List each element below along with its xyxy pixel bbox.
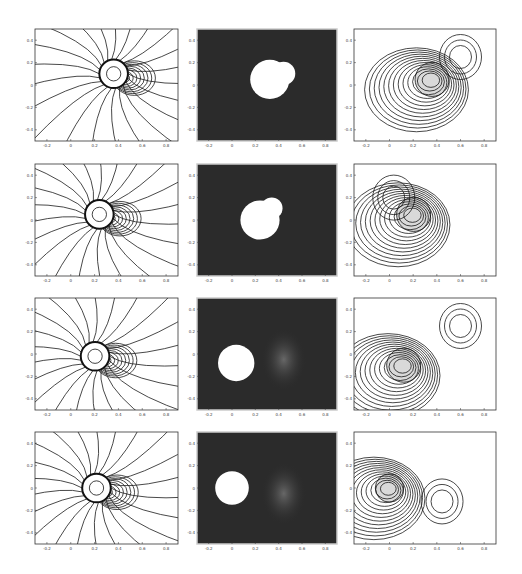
svg-text:0.4: 0.4 (275, 278, 282, 283)
svg-text:-0.2: -0.2 (344, 374, 352, 379)
svg-text:0: 0 (69, 278, 72, 283)
svg-text:-0.4: -0.4 (187, 530, 195, 535)
svg-text:0.2: 0.2 (346, 463, 353, 468)
svg-text:0.2: 0.2 (189, 195, 196, 200)
svg-text:0.6: 0.6 (139, 143, 146, 148)
svg-text:0.2: 0.2 (189, 463, 196, 468)
pressure-contour-plot-row-1: -0.200.20.40.60.80.40.20-0.2-0.4 (35, 29, 178, 141)
svg-text:-0.2: -0.2 (187, 374, 195, 379)
svg-text:-0.2: -0.2 (187, 105, 195, 110)
svg-text:0.6: 0.6 (139, 412, 146, 417)
svg-text:0.6: 0.6 (299, 546, 306, 551)
svg-text:0.4: 0.4 (27, 441, 34, 446)
svg-text:0.6: 0.6 (139, 546, 146, 551)
pressure-contour-plot-row-3: -0.200.20.40.60.80.40.20-0.2-0.4 (35, 298, 178, 410)
pressure-contour-plot-row-2: -0.200.20.40.60.80.40.20-0.2-0.4 (35, 164, 178, 276)
svg-text:0.6: 0.6 (299, 412, 306, 417)
svg-text:-0.4: -0.4 (25, 396, 33, 401)
svg-text:0.8: 0.8 (481, 278, 488, 283)
svg-text:0.8: 0.8 (322, 546, 329, 551)
visualization-image-row-4: -0.200.20.40.60.80.40.20-0.2-0.4 (197, 432, 337, 544)
svg-text:0.6: 0.6 (457, 278, 464, 283)
svg-text:0.2: 0.2 (410, 546, 417, 551)
svg-text:0.4: 0.4 (434, 412, 441, 417)
svg-text:0.8: 0.8 (481, 143, 488, 148)
svg-text:0.4: 0.4 (346, 307, 353, 312)
vorticity-contour-plot-row-3: -0.200.20.40.60.80.40.20-0.2-0.4 (354, 298, 496, 410)
svg-text:0: 0 (349, 352, 352, 357)
svg-text:0.2: 0.2 (91, 412, 98, 417)
svg-text:-0.4: -0.4 (344, 396, 352, 401)
svg-text:0.2: 0.2 (27, 195, 34, 200)
svg-text:-0.4: -0.4 (344, 530, 352, 535)
svg-text:0.4: 0.4 (115, 143, 122, 148)
visualization-image-row-2: -0.200.20.40.60.80.40.20-0.2-0.4 (197, 164, 337, 276)
visualization-image-row-3: -0.200.20.40.60.80.40.20-0.2-0.4 (197, 298, 337, 410)
svg-text:-0.2: -0.2 (43, 278, 51, 283)
svg-text:-0.2: -0.2 (344, 240, 352, 245)
svg-text:0.8: 0.8 (322, 412, 329, 417)
svg-text:0.2: 0.2 (252, 278, 259, 283)
svg-text:0.4: 0.4 (115, 278, 122, 283)
svg-text:0.8: 0.8 (481, 412, 488, 417)
svg-text:-0.4: -0.4 (344, 127, 352, 132)
visualization-image-row-1: -0.200.20.40.60.80.40.20-0.2-0.4 (197, 29, 337, 141)
svg-text:0: 0 (231, 412, 234, 417)
svg-text:0.4: 0.4 (27, 307, 34, 312)
svg-text:-0.2: -0.2 (187, 240, 195, 245)
svg-text:-0.2: -0.2 (25, 240, 33, 245)
svg-text:0.2: 0.2 (27, 329, 34, 334)
svg-text:0.4: 0.4 (189, 441, 196, 446)
svg-text:-0.2: -0.2 (25, 374, 33, 379)
svg-text:-0.2: -0.2 (187, 508, 195, 513)
svg-text:0.6: 0.6 (457, 546, 464, 551)
svg-text:0: 0 (388, 278, 391, 283)
svg-text:0.4: 0.4 (346, 173, 353, 178)
svg-text:-0.2: -0.2 (362, 546, 370, 551)
svg-text:0.4: 0.4 (115, 412, 122, 417)
svg-text:0.4: 0.4 (275, 143, 282, 148)
svg-text:0.6: 0.6 (299, 278, 306, 283)
svg-text:0.2: 0.2 (91, 546, 98, 551)
svg-text:-0.4: -0.4 (25, 262, 33, 267)
svg-text:0.4: 0.4 (275, 546, 282, 551)
svg-text:-0.2: -0.2 (344, 105, 352, 110)
svg-text:0.4: 0.4 (189, 307, 196, 312)
vorticity-contour-plot-row-1: -0.200.20.40.60.80.40.20-0.2-0.4 (354, 29, 496, 141)
svg-text:0: 0 (192, 218, 195, 223)
svg-text:0: 0 (388, 412, 391, 417)
svg-text:0: 0 (231, 143, 234, 148)
svg-text:0.2: 0.2 (252, 412, 259, 417)
svg-text:0.4: 0.4 (115, 546, 122, 551)
svg-text:0: 0 (192, 352, 195, 357)
svg-text:0.2: 0.2 (189, 329, 196, 334)
vorticity-contour-plot-row-2: -0.200.20.40.60.80.40.20-0.2-0.4 (354, 164, 496, 276)
svg-text:0: 0 (69, 546, 72, 551)
svg-text:0: 0 (231, 278, 234, 283)
svg-text:0: 0 (349, 218, 352, 223)
svg-text:0.6: 0.6 (299, 143, 306, 148)
svg-text:0: 0 (69, 143, 72, 148)
svg-text:0.8: 0.8 (322, 143, 329, 148)
svg-text:0.8: 0.8 (163, 546, 170, 551)
svg-text:0.2: 0.2 (27, 60, 34, 65)
svg-text:0: 0 (30, 218, 33, 223)
svg-text:0.2: 0.2 (91, 143, 98, 148)
svg-text:0.4: 0.4 (346, 441, 353, 446)
svg-text:-0.2: -0.2 (25, 105, 33, 110)
svg-text:0.8: 0.8 (322, 278, 329, 283)
svg-text:0.2: 0.2 (346, 329, 353, 334)
svg-text:0.8: 0.8 (163, 143, 170, 148)
svg-text:0.2: 0.2 (346, 60, 353, 65)
vorticity-contour-plot-row-4: -0.200.20.40.60.80.40.20-0.2-0.4 (354, 432, 496, 544)
svg-text:0.4: 0.4 (27, 38, 34, 43)
svg-text:-0.2: -0.2 (205, 546, 213, 551)
svg-text:-0.2: -0.2 (205, 278, 213, 283)
svg-text:-0.2: -0.2 (43, 412, 51, 417)
svg-text:0.2: 0.2 (410, 143, 417, 148)
svg-text:0.2: 0.2 (27, 463, 34, 468)
svg-text:0: 0 (349, 83, 352, 88)
svg-text:-0.4: -0.4 (187, 127, 195, 132)
svg-text:0.2: 0.2 (410, 278, 417, 283)
svg-text:-0.2: -0.2 (362, 278, 370, 283)
